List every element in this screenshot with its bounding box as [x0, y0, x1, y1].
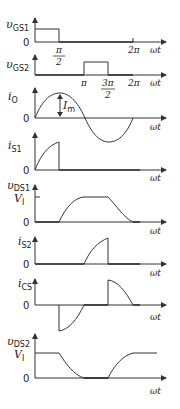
tick-label-2pi: 2π [127, 78, 141, 88]
x-axis-label: ωt [150, 268, 161, 278]
tick-label-2pi: 2π [127, 45, 141, 55]
label-im: Im [62, 99, 75, 114]
tick-label-pi2-num: π [55, 45, 63, 55]
label-vgs1: υGS1 [6, 18, 29, 33]
plot-ics: iCS 0 ωt [18, 277, 166, 331]
gate-pulse-vgs1 [35, 29, 59, 42]
zero-label: 0 [23, 217, 29, 228]
x-axis-label: ωt [150, 45, 161, 55]
capacitor-current-negative [59, 305, 84, 331]
x-axis-label: ωt [150, 386, 161, 396]
x-axis-label: ωt [150, 78, 161, 88]
label-vgs2: υGS2 [6, 58, 29, 73]
label-ics: iCS [18, 277, 32, 292]
zero-label: 0 [23, 300, 29, 311]
gate-pulse-vgs2 [84, 62, 108, 75]
x-axis-label: ωt [150, 312, 161, 322]
plot-vgs2: υGS2 π 3π 2 2π ωt [6, 55, 166, 100]
label-vi: VI [14, 348, 24, 363]
plot-vds1: υDS1 VI 0 ωt [7, 179, 166, 236]
waveform-diagram: υGS1 0 π 2 2π ωt υGS2 π 3π 2 2π ωt iO Im… [0, 0, 180, 409]
plot-io: iO Im 0 ωt [8, 88, 166, 142]
drain-voltage-vds1 [59, 197, 133, 222]
tick-label-pi: π [80, 78, 88, 88]
zero-label: 0 [23, 113, 29, 124]
x-axis-label: ωt [150, 122, 161, 132]
plot-is2: iS2 0 ωt [18, 235, 166, 278]
x-axis-label: ωt [150, 226, 161, 236]
switch-current-s1 [35, 142, 59, 170]
plot-is1: iS1 0 ωt [8, 133, 166, 183]
tick-label-3pi2-den: 2 [104, 90, 111, 100]
zero-label: 0 [23, 165, 29, 176]
zero-label: 0 [23, 373, 29, 384]
label-vds1: υDS1 [7, 179, 30, 193]
capacitor-current-positive [108, 280, 133, 305]
plot-vds2: υDS2 VI 0 ωt [7, 334, 166, 396]
label-vi: VI [14, 192, 24, 207]
label-vds2: υDS2 [7, 335, 30, 349]
plot-vgs1: υGS1 0 π 2 2π ωt [6, 18, 166, 67]
tick-label-3pi2-num: 3π [102, 78, 115, 88]
zero-label: 0 [23, 259, 29, 270]
switch-current-s2 [84, 238, 108, 264]
x-axis-label: ωt [150, 173, 161, 183]
tick-label-pi2-den: 2 [55, 57, 62, 67]
zero-label: 0 [23, 37, 29, 48]
drain-voltage-vds2 [35, 353, 157, 378]
label-is1: iS1 [8, 139, 22, 154]
label-is2: iS2 [18, 235, 32, 250]
label-io: iO [8, 90, 18, 105]
